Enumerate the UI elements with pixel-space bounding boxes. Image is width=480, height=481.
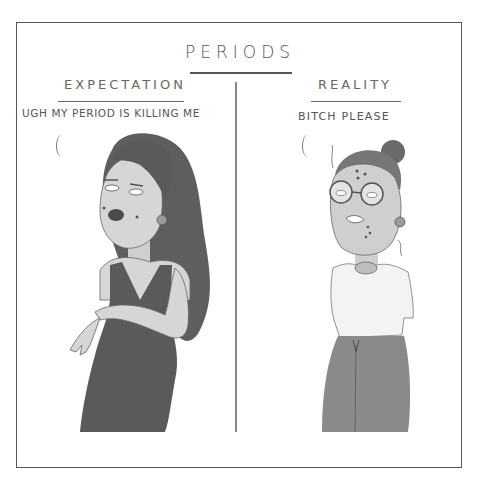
reality-character-illustration [0,0,480,481]
